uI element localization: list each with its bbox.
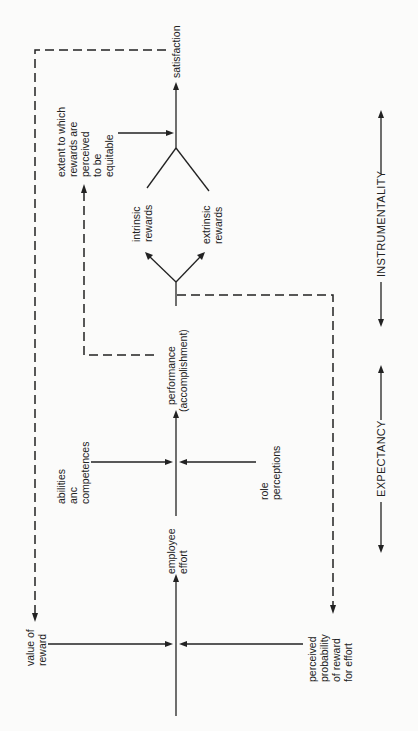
label-line: of reward	[330, 638, 342, 682]
label-line: abilities	[55, 469, 67, 504]
branch-to-intrinsic	[149, 256, 176, 282]
label-line: rewards	[212, 207, 224, 244]
label-line: anc	[67, 487, 79, 504]
node-satisfaction: satisfaction	[170, 25, 182, 78]
label-line: probability	[318, 633, 330, 682]
label-line: perceived	[306, 636, 318, 682]
node-abilities: abilities anc competences	[55, 442, 91, 504]
label-line: reward	[36, 634, 48, 666]
node-intrinsic-rewards: intrinsic rewards	[130, 205, 154, 242]
label-line: rewards are	[67, 121, 79, 177]
arrowhead	[330, 605, 336, 614]
label-line: for effort	[342, 643, 354, 682]
node-value-of-reward: value of reward	[24, 629, 48, 666]
label-line: satisfaction	[170, 25, 182, 78]
label-line: perceived	[79, 131, 91, 177]
label-line: role	[258, 482, 270, 500]
intrinsic-to-merge	[147, 148, 176, 188]
label-line: extrinsic	[200, 205, 212, 244]
label-line: performance	[165, 346, 177, 405]
label-line: rewards	[142, 205, 154, 242]
label-line: competences	[79, 442, 91, 504]
label-line: equitable	[103, 134, 115, 177]
node-employee-effort: employee effort	[165, 528, 189, 574]
branch-to-extrinsic	[176, 256, 201, 282]
label-line: intrinsic	[130, 206, 142, 242]
axis-label-instrumentality: INSTRUMENTALITY	[375, 170, 387, 277]
feedback-performance-to-probability	[177, 295, 333, 606]
label-line: extent to which	[55, 107, 67, 177]
arrowhead	[378, 545, 384, 553]
node-equitable-rewards: extent to which rewards are perceived to…	[55, 107, 115, 177]
node-performance: performance (accomplishment)	[165, 329, 189, 412]
arrowhead	[165, 641, 173, 647]
arrowhead	[166, 130, 174, 136]
label-line: employee	[165, 528, 177, 574]
arrowhead	[32, 613, 38, 622]
arrowhead	[378, 319, 384, 327]
label-line: to be	[91, 153, 103, 177]
node-extrinsic-rewards: extrinsic rewards	[200, 205, 224, 244]
arrowhead	[378, 110, 384, 118]
arrowhead	[81, 184, 87, 193]
label-line: value of	[24, 629, 36, 666]
arrowhead	[165, 459, 173, 465]
node-role-perceptions: role perceptions	[258, 446, 282, 500]
extrinsic-to-merge	[176, 148, 209, 191]
node-perceived-probability: perceived probability of reward for effo…	[306, 633, 354, 682]
instrumentality-label: INSTRUMENTALITY	[375, 170, 387, 277]
axis-label-expectancy: EXPECTANCY	[375, 420, 387, 497]
arrowhead	[179, 641, 187, 647]
label-line: perceptions	[270, 446, 282, 500]
arrowhead	[378, 365, 384, 373]
arrowhead	[173, 574, 179, 582]
label-line: effort	[177, 550, 189, 574]
arrowhead	[179, 459, 187, 465]
expectancy-label: EXPECTANCY	[375, 420, 387, 497]
label-line: (accomplishment)	[177, 329, 189, 412]
arrowhead	[173, 82, 179, 90]
motivation-diagram: satisfaction extent to which rewards are…	[0, 0, 418, 731]
